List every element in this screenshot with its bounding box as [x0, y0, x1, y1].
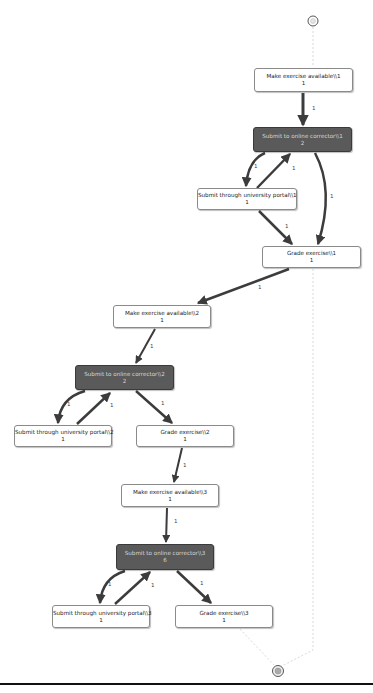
edge-label: 1 — [183, 462, 187, 468]
node-submit-to-online-corrector-1[interactable]: Submit to online corrector\\1 2 — [253, 127, 352, 152]
node-submit-through-university-portal-2[interactable]: Submit through university portal\\2 1 — [14, 425, 112, 447]
node-submit-through-university-portal-1[interactable]: Submit through university portal\\1 1 — [197, 188, 297, 210]
node-count: 1 — [198, 199, 296, 206]
node-make-exercise-available-2[interactable]: Make exercise available\\2 1 — [113, 305, 211, 328]
node-submit-to-online-corrector-2[interactable]: Submit to online corrector\\2 2 — [75, 365, 174, 390]
node-label: Make exercise available\\1 — [255, 73, 352, 80]
node-grade-exercise-1[interactable]: Grade exercise\\1 1 — [262, 246, 361, 268]
node-count: 1 — [15, 436, 111, 443]
edge-soc3-to-ge3 — [177, 571, 211, 603]
node-count: 6 — [117, 557, 213, 564]
edge-label: 1 — [110, 402, 114, 408]
edge-ge3-to-end — [240, 629, 274, 665]
edge-mea3-to-soc3 — [166, 508, 167, 542]
edge-sup1-to-soc1 — [257, 154, 290, 188]
edge-label: 1 — [200, 580, 204, 586]
node-count: 1 — [137, 436, 233, 443]
edge-soc2-to-ge2 — [136, 391, 172, 423]
node-count: 2 — [76, 378, 173, 385]
process-map-canvas: 1 1 1 1 1 1 1 1 1 1 1 1 1 1 1 — [0, 0, 373, 693]
node-label: Submit to online corrector\\1 — [254, 133, 351, 140]
edge-label: 1 — [330, 193, 334, 199]
edge-label: 1 — [292, 165, 296, 171]
edge-soc2-to-sup2 — [58, 391, 85, 423]
node-label: Grade exercise\\2 — [137, 429, 233, 436]
edge-label: 1 — [67, 401, 71, 407]
node-submit-to-online-corrector-3[interactable]: Submit to online corrector\\3 6 — [116, 544, 214, 570]
node-count: 1 — [114, 317, 210, 324]
node-submit-through-university-portal-3[interactable]: Submit through university portal\\3 1 — [52, 605, 150, 628]
edge-label: 1 — [150, 343, 154, 349]
node-label: Submit through university portal\\3 — [53, 610, 149, 617]
node-label: Submit through university portal\\1 — [198, 192, 296, 199]
bottom-divider — [0, 683, 373, 685]
node-label: Submit to online corrector\\2 — [76, 371, 173, 378]
node-label: Make exercise available\\2 — [114, 310, 210, 317]
node-grade-exercise-2[interactable]: Grade exercise\\2 1 — [136, 425, 234, 447]
node-grade-exercise-3[interactable]: Grade exercise\\3 1 — [175, 605, 273, 628]
edge-label: 1 — [161, 400, 165, 406]
node-count: 1 — [176, 617, 272, 624]
node-count: 1 — [53, 617, 149, 624]
node-label: Make exercise available\\3 — [122, 489, 218, 496]
start-node-icon[interactable] — [308, 16, 318, 26]
node-count: 2 — [254, 140, 351, 147]
edge-label: 1 — [254, 163, 258, 169]
node-label: Submit to online corrector\\3 — [117, 550, 213, 557]
node-make-exercise-available-3[interactable]: Make exercise available\\3 1 — [121, 484, 219, 507]
edge-label: 1 — [151, 582, 155, 588]
edge-ge1-to-end — [280, 269, 313, 667]
edge-sup2-to-soc2 — [77, 393, 110, 424]
node-label: Grade exercise\\3 — [176, 610, 272, 617]
edge-label: 1 — [174, 518, 178, 524]
node-count: 1 — [122, 496, 218, 503]
node-label: Submit through university portal\\2 — [15, 429, 111, 436]
edge-ge2-to-mea3 — [174, 448, 182, 482]
edge-ge1-to-mea2 — [198, 269, 289, 303]
edge-sup3-to-soc3 — [115, 572, 150, 604]
edge-soc1-to-ge1 — [315, 153, 326, 244]
edge-label: 1 — [108, 581, 112, 587]
node-count: 1 — [263, 257, 360, 264]
edge-label: 1 — [285, 223, 289, 229]
end-node-icon[interactable] — [273, 666, 284, 677]
edge-label: 1 — [258, 284, 262, 290]
node-make-exercise-available-1[interactable]: Make exercise available\\1 1 — [254, 68, 353, 92]
node-count: 1 — [255, 80, 352, 87]
edge-label: 1 — [312, 105, 316, 111]
node-label: Grade exercise\\1 — [263, 250, 360, 257]
